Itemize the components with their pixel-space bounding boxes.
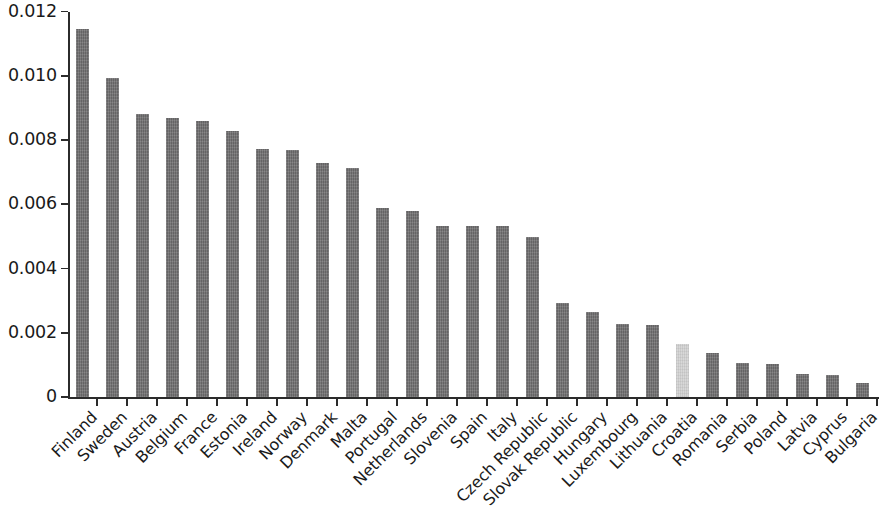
bar-fill [406,211,419,397]
x-axis-tick-mark [426,399,428,406]
x-axis-tick-mark [96,399,98,406]
bar-chart: 00.0020.0040.0060.0080.0100.012 FinlandS… [0,0,880,522]
bar-fill [196,121,209,397]
bar [106,78,119,397]
y-axis-tick-label: 0.006 [8,195,57,213]
x-axis-tick-mark [396,399,398,406]
x-axis-tick-mark [516,399,518,406]
bar [856,383,869,397]
x-axis-tick-mark [366,399,368,406]
y-axis-tick-mark [61,268,68,270]
bar [766,364,779,397]
bar-fill [466,226,479,397]
y-axis-tick-label: 0.008 [8,131,57,149]
x-axis-tick-mark [486,399,488,406]
x-axis-tick-mark [666,399,668,406]
bar [226,131,239,397]
x-axis-tick-mark [336,399,338,406]
bar-fill [706,353,719,397]
bar [346,168,359,397]
bar [196,121,209,397]
bar-fill [736,363,749,397]
y-axis-tick-label: 0.004 [8,260,57,278]
x-axis-tick-mark [726,399,728,406]
x-axis-tick-mark [456,399,458,406]
bar [526,237,539,397]
y-axis-tick-mark [61,203,68,205]
bar [646,325,659,397]
y-axis-tick-mark [61,11,68,13]
bar [316,163,329,398]
bar-fill [376,208,389,397]
bar-fill [556,303,569,397]
bar [166,118,179,397]
x-axis-tick-mark [186,399,188,406]
bar [706,353,719,397]
bar [496,226,509,397]
y-axis-tick-mark [61,332,68,334]
bar-fill [286,150,299,397]
bar-fill [346,168,359,397]
x-axis-tick-mark [216,399,218,406]
bar [556,303,569,397]
y-axis-tick-mark [61,75,68,77]
bar [286,150,299,397]
x-axis-tick-mark [786,399,788,406]
x-axis-tick-mark [876,399,878,406]
bar [736,363,749,397]
bar [256,149,269,397]
bar-fill [76,29,89,397]
bar-fill [676,344,689,397]
y-axis-tick-label: 0.002 [8,324,57,342]
bar-fill [796,374,809,397]
x-axis-tick-mark [696,399,698,406]
bar [406,211,419,397]
y-axis-tick-mark [61,139,68,141]
bar [796,374,809,397]
y-axis-tick-label: 0.010 [8,67,57,85]
x-axis-tick-mark [546,399,548,406]
x-axis-tick-mark [306,399,308,406]
x-axis-tick-mark [636,399,638,406]
x-axis-tick-mark [156,399,158,406]
bar-fill [166,118,179,397]
plot-area: 00.0020.0040.0060.0080.0100.012 FinlandS… [0,0,880,522]
y-axis-tick-mark [61,396,68,398]
bar-fill [226,131,239,397]
bar-fill [856,383,869,397]
bar [826,375,839,397]
bar [136,114,149,397]
bar-fill [766,364,779,397]
bar-fill [256,149,269,397]
x-axis-tick-mark [756,399,758,406]
bar [676,344,689,397]
bar-fill [646,325,659,397]
y-axis-tick-label: 0 [46,388,57,406]
bar-fill [616,324,629,397]
bar-fill [586,312,599,397]
bar [76,29,89,397]
bar-fill [526,237,539,397]
x-axis-tick-mark [126,399,128,406]
bar-fill [316,163,329,398]
bar-fill [436,226,449,397]
x-axis-tick-mark [606,399,608,406]
x-axis-tick-mark [246,399,248,406]
x-axis-tick-mark [576,399,578,406]
bar [586,312,599,397]
x-axis-tick-mark [846,399,848,406]
bar-fill [496,226,509,397]
y-axis-tick-label: 0.012 [8,3,57,21]
y-axis-line [68,12,70,398]
bar [436,226,449,397]
x-axis-tick-mark [276,399,278,406]
bar [376,208,389,397]
x-axis-tick-mark [816,399,818,406]
bar-fill [106,78,119,397]
bar-fill [826,375,839,397]
bar [466,226,479,397]
bar [616,324,629,397]
bar-fill [136,114,149,397]
